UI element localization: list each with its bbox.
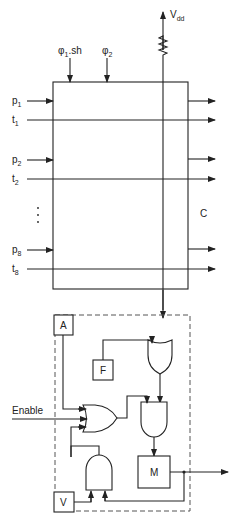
block-f-label: F: [100, 365, 106, 376]
array-box: [53, 82, 188, 289]
enable-label: Enable: [12, 405, 44, 416]
input-t2-label: t2: [12, 173, 19, 186]
block-m-label: M: [150, 467, 158, 478]
input-p1-label: p1: [12, 95, 22, 108]
block-a-label: A: [60, 320, 67, 331]
input-t1-label: t1: [12, 114, 19, 127]
input-t8-label: t8: [12, 263, 19, 276]
and-gate-bottom: [86, 455, 112, 490]
circuit-diagram: Vdd φ1.sh φ2 p1 t1 p2 t2 p8 t8 C A F: [0, 0, 242, 519]
or-gate-enable: [83, 405, 117, 432]
block-v-label: V: [60, 497, 67, 508]
and-gate-middle: [141, 402, 167, 437]
input-rows: [27, 101, 215, 269]
clock-inputs: [70, 58, 107, 82]
ellipsis-dots: [37, 207, 39, 223]
clock-phi1-label: φ1.sh: [58, 45, 82, 58]
vdd-supply: [159, 12, 167, 318]
vdd-label: Vdd: [170, 9, 185, 22]
input-p8-label: p8: [12, 244, 22, 257]
input-p2-label: p2: [12, 154, 22, 167]
or-gate-top: [148, 340, 172, 374]
array-label-c: C: [200, 208, 207, 219]
clock-phi2-label: φ2: [102, 45, 112, 58]
